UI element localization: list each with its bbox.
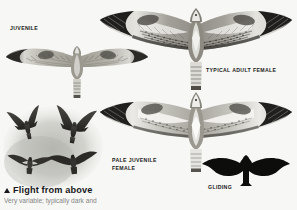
- figure-typical-adult-female: [96, 0, 296, 92]
- label-pale-juvenile-female: PALE JUVENILE FEMALE: [112, 156, 157, 172]
- bird-group-vignette-icon: [0, 100, 108, 190]
- triangle-up-icon: [4, 188, 10, 193]
- figure-vignette: [0, 100, 108, 190]
- caption-heading-text: Flight from above: [13, 185, 93, 195]
- label-typical-adult-female: TYPICAL ADULT FEMALE: [206, 66, 276, 74]
- illustration-plate: JUVENILE TYPICAL ADULT FEMALE PALE JUVEN…: [0, 0, 297, 210]
- caption-heading: Flight from above: [4, 185, 134, 195]
- caption-block: Flight from above Very variable; typical…: [4, 185, 134, 206]
- caption-body-text: Very variable; typically dark and: [4, 197, 134, 206]
- label-gliding: GLIDING: [208, 183, 232, 191]
- label-juvenile: JUVENILE: [10, 24, 38, 32]
- bird-soaring-from-above-icon: [96, 0, 296, 92]
